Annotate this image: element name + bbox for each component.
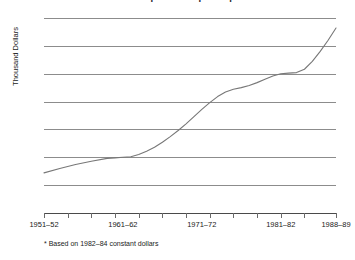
x-tick-label-1981–82: 1981–82: [251, 221, 311, 229]
plot-area: 0.00.51.01.52.02.53.03.5 1951–521961–621…: [44, 18, 336, 213]
x-tick-1966: [162, 213, 163, 218]
x-tick-1978: [257, 213, 258, 218]
x-tick-label-1961–62: 1961–62: [93, 221, 153, 229]
chart-title: Annual Expenditure per Pupil*: [0, 0, 347, 2]
x-tick-1969: [186, 213, 187, 218]
x-tick-1951: [44, 213, 45, 218]
x-tick-1954: [68, 213, 69, 218]
x-tick-1988: [336, 213, 337, 218]
y-axis-title: Thousand Dollars: [11, 0, 20, 122]
x-tick-label-1951–52: 1951–52: [14, 221, 74, 229]
x-tick-1957: [91, 213, 92, 218]
series-line-expenditure-per-pupil: [44, 18, 336, 213]
x-tick-1981: [281, 213, 282, 218]
x-tick-1972: [210, 213, 211, 218]
x-tick-1984: [304, 213, 305, 218]
chart-footnote: * Based on 1982–84 constant dollars: [44, 240, 158, 247]
x-tick-1963: [139, 213, 140, 218]
gridline-0.0: [44, 213, 336, 214]
x-tick-label-1971–72: 1971–72: [172, 221, 232, 229]
x-tick-1975: [233, 213, 234, 218]
x-tick-1960: [115, 213, 116, 218]
series-polyline: [44, 28, 336, 173]
x-tick-label-1988–89: 1988–89: [306, 221, 355, 229]
